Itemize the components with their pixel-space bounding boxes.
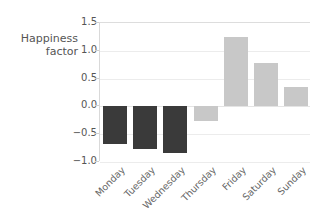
- gridline: [100, 162, 310, 163]
- x-axis-tick-label: Friday: [220, 165, 247, 192]
- y-axis-tick-label: 0.0: [61, 100, 97, 110]
- bar: [284, 87, 308, 106]
- plot-area: [99, 22, 310, 161]
- y-axis-tick-label: −0.5: [61, 128, 97, 138]
- gridline: [100, 51, 310, 52]
- x-axis-tick-label: Sunday: [276, 165, 308, 197]
- y-axis-tick-label: −1.0: [61, 156, 97, 166]
- y-axis-tick-mark: [95, 161, 99, 162]
- x-axis-tick-label: Monday: [94, 165, 128, 199]
- y-axis-tick-label: 0.5: [61, 73, 97, 83]
- bar-chart: Happiness factor 1.51.00.50.0−0.5−1.0 Mo…: [0, 0, 321, 222]
- bar: [254, 63, 278, 106]
- bar: [133, 106, 157, 148]
- gridline: [100, 79, 310, 80]
- bar: [163, 106, 187, 152]
- bar: [224, 37, 248, 107]
- bar: [194, 106, 218, 121]
- y-axis-tick-label: 1.5: [61, 17, 97, 27]
- y-axis-tick-label: 1.0: [61, 45, 97, 55]
- gridline: [100, 134, 310, 135]
- bar: [103, 106, 127, 144]
